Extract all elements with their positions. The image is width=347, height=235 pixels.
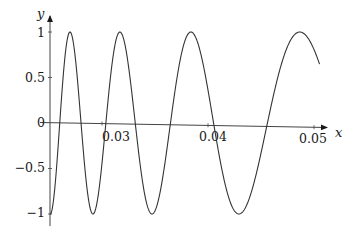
y-tick-0: 0 [37, 115, 45, 130]
y-axis-label: y [36, 6, 45, 21]
x-tick-0-03: 0.03 [102, 129, 130, 144]
x-axis-label: x [335, 125, 343, 140]
x-tick-0-05: 0.05 [299, 131, 327, 146]
x-tick-0-04: 0.04 [199, 129, 227, 144]
y-tick-0-5: 0.5 [25, 70, 45, 85]
chart-canvas: x y 1 0.5 0 −0.5 −1 0.03 0.04 0.05 [0, 0, 347, 235]
y-tick-1: 1 [37, 25, 45, 40]
y-tick-neg-0-5: −0.5 [15, 160, 45, 175]
x-axis [40, 123, 327, 128]
y-tick-neg-1: −1 [27, 205, 45, 220]
